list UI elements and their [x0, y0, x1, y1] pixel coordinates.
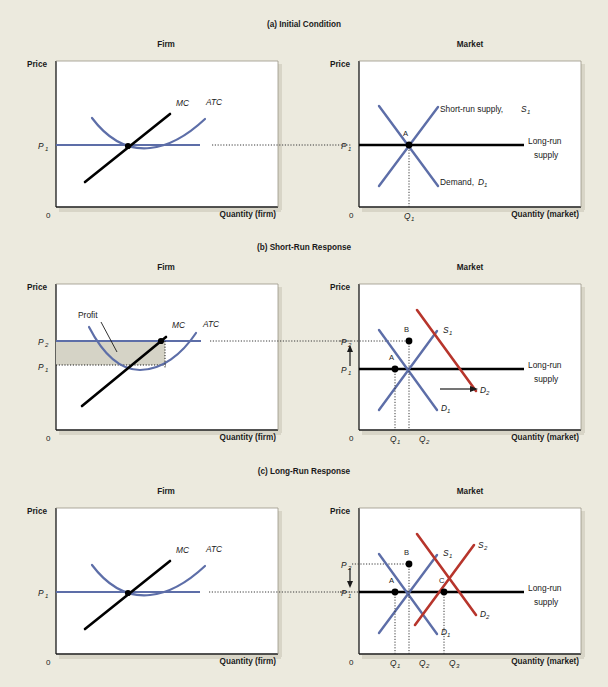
panel-c-market-d1-subscript: 1 [447, 632, 450, 638]
panel-a-firm-p1-subscript: 1 [45, 146, 48, 152]
panel-b-market-origin-label: 0 [349, 434, 354, 443]
panel-c-market-long-run-supply-label-line1: Long-run [528, 583, 562, 593]
panel-c-market-y-axis-label: Price [330, 507, 350, 516]
economics-figure: (a) Initial Condition Firm Price Quantit… [0, 0, 608, 687]
panel-c-firm-origin-label: 0 [46, 658, 51, 667]
panel-c-firm-column-title: Firm [157, 487, 175, 496]
panel-b-firm-equilibrium-point [158, 338, 164, 344]
panel-c-firm-atc-label: ATC [205, 544, 223, 554]
panel-b-market-shadow-right [581, 287, 585, 433]
panel-c-firm-chart: Firm Price Quantity (firm) 0 MC ATC P 1 [27, 487, 282, 667]
panel-c-firm-p1-subscript: 1 [45, 593, 48, 599]
panel-a-firm-plot-area [56, 61, 278, 207]
panel-a-market-shadow-right [581, 64, 585, 210]
panel-b-market-point-b [406, 338, 413, 345]
panel-b-firm-p2-subscript: 2 [44, 342, 49, 348]
panel-a-market-long-run-supply-label-line2: supply [534, 150, 559, 160]
panel-a-market-point-a [406, 142, 413, 149]
panel-a-market-x-axis-label: Quantity (market) [511, 210, 579, 219]
panel-a-firm-shadow-right [278, 64, 282, 210]
panel-b-firm-column-title: Firm [157, 263, 175, 272]
panel-b-market-q1-subscript: 1 [397, 439, 400, 445]
panel-c-market-p1-label: P [341, 588, 347, 598]
panel-a-market-long-run-supply-label-line1: Long-run [528, 136, 562, 146]
panel-a-firm-y-axis-label: Price [27, 60, 47, 69]
panel-c-firm-p1-label: P [38, 588, 44, 598]
panel-b-market-s1-subscript: 1 [449, 330, 452, 336]
panel-c-market-q2-label: Q [419, 658, 426, 668]
panel-b-market-long-run-supply-label-line1: Long-run [528, 360, 562, 370]
panel-c-title: (c) Long-Run Response [258, 467, 351, 476]
panel-c-market-point-a [392, 589, 399, 596]
panel-c-firm-plot-area [56, 508, 278, 654]
panel-b-market-y-axis-label: Price [330, 283, 350, 292]
panel-b-market-d2-subscript: 2 [485, 390, 490, 396]
panel-b-firm-x-axis-label: Quantity (firm) [220, 433, 277, 442]
panel-b-firm-profit-label: Profit [78, 310, 98, 320]
panel-b-firm-profit-area [56, 341, 165, 365]
panel-c-market-p1-subscript: 1 [348, 593, 351, 599]
panel-c-market-s2-subscript: 2 [483, 545, 488, 551]
panel-a-market-short-run-supply-label: Short-run supply, [440, 104, 503, 114]
panel-c-market-p2-label: P [341, 560, 347, 570]
panel-b-market-x-axis-label: Quantity (market) [511, 433, 579, 442]
panel-a-market-s1-subscript: 1 [527, 109, 530, 115]
panel-c-market-point-c [441, 589, 448, 596]
panel-b-market-chart: Market Price Quantity (market) 0 [330, 263, 585, 445]
panel-a-firm-column-title: Firm [157, 40, 175, 49]
panel-c-firm-equilibrium-point [125, 590, 131, 596]
panel-b-market-p2-label: P [341, 337, 347, 347]
panel-a-firm-x-axis-label: Quantity (firm) [220, 210, 277, 219]
panel-c-market-point-b [406, 561, 413, 568]
panel-b-market-point-a [392, 366, 399, 373]
panel-a-firm-p1-label: P [38, 141, 44, 151]
panel-b-market-d1-subscript: 1 [447, 408, 450, 414]
panel-a-market-chart: Market Price Quantity (market) 0 A Short… [330, 40, 585, 222]
panel-c-market-shadow-right [581, 511, 585, 657]
panel-c-market-origin-label: 0 [349, 658, 354, 667]
panel-b-firm-shadow-right [278, 287, 282, 433]
panel-a-title: (a) Initial Condition [267, 20, 341, 29]
panel-b-market-q2-subscript: 2 [425, 439, 430, 445]
panel-c-market-q1-subscript: 1 [397, 663, 400, 669]
panel-b-market-q2-label: Q [419, 434, 426, 444]
panel-b-market-p2-subscript: 2 [347, 342, 352, 348]
panel-b-market-q1-label: Q [390, 434, 397, 444]
panel-c-market-d2-subscript: 2 [485, 614, 490, 620]
panel-a-market-origin-label: 0 [349, 211, 354, 220]
panel-c-firm-mc-label: MC [176, 545, 190, 555]
panel-c-market-column-title: Market [457, 487, 484, 496]
panel-c-market-p2-subscript: 2 [347, 565, 352, 571]
panel-a-market-y-axis-label: Price [330, 60, 350, 69]
panel-b-market-p1-label: P [341, 365, 347, 375]
panel-c-market-long-run-supply-label-line2: supply [534, 597, 559, 607]
panel-c-market-chart: Market Price Quantity (market) 0 [330, 487, 585, 669]
panel-b-firm-p1-label: P [38, 362, 44, 372]
panel-a-market-d1-subscript: 1 [484, 182, 487, 188]
panel-c-market-s1-subscript: 1 [449, 553, 452, 559]
panel-b-firm-mc-label: MC [172, 320, 186, 330]
panel-c-market-point-c-label: C [439, 576, 445, 585]
panel-a-market-q1-label: Q [404, 211, 411, 221]
panel-a-market-p1-label: P [341, 141, 347, 151]
panel-b-firm-p2-label: P [38, 337, 44, 347]
panel-a-firm-mc-label: MC [176, 98, 190, 108]
panel-c-firm-x-axis-label: Quantity (firm) [220, 657, 277, 666]
panel-c-market-q1-label: Q [390, 658, 397, 668]
panel-b-market-point-b-label: B [404, 325, 409, 334]
panel-b-firm-chart: Firm Price Quantity (firm) 0 [27, 263, 282, 443]
panel-a-market-column-title: Market [457, 40, 484, 49]
panel-b-firm-y-axis-label: Price [27, 283, 47, 292]
panel-c-market-x-axis-label: Quantity (market) [511, 657, 579, 666]
panel-c-firm-shadow-right [278, 511, 282, 657]
panel-b-firm-origin-label: 0 [46, 434, 51, 443]
panel-b-market-p1-subscript: 1 [348, 370, 351, 376]
panel-b-market-column-title: Market [457, 263, 484, 272]
panel-a-market-q1-subscript: 1 [411, 216, 414, 222]
panel-c-market-q3-label: Q [449, 658, 456, 668]
panel-a-firm-atc-label: ATC [205, 97, 223, 107]
panel-c-market-q2-subscript: 2 [425, 663, 430, 669]
panel-b-title: (b) Short-Run Response [257, 243, 352, 252]
panel-a-market-demand-label: Demand, [440, 177, 474, 187]
panel-b-firm-p1-subscript: 1 [45, 367, 48, 373]
